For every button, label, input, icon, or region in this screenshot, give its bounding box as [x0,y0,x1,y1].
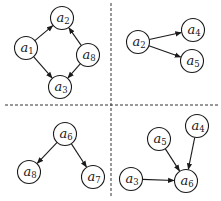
node-label-base: a [188,22,196,37]
edge-a8-to-a3 [68,64,81,78]
node-label-subscript: 8 [90,53,95,63]
edge-a8-to-a2 [69,28,81,46]
node-label-base: a [133,34,141,49]
node-label-subscript: 5 [161,137,166,147]
edge-a6-to-a8 [37,142,57,163]
edge-a5-to-a6 [165,149,179,171]
node-a6: a6 [54,123,77,146]
node-label-subscript: 7 [95,175,100,185]
panel-bottom-left: a6a8a7 [18,123,105,189]
edges [34,26,82,78]
node-label-subscript: 4 [195,28,200,38]
edge-a1-to-a2 [35,26,53,41]
node-a2: a2 [127,31,150,54]
node-a4: a4 [186,115,209,138]
node-a5: a5 [181,50,204,73]
node-label-base: a [57,10,65,25]
panel-top-right: a2a4a5 [127,19,205,73]
edges [149,33,181,57]
edge-a2-to-a5 [149,46,181,57]
node-label-subscript: 3 [133,177,138,187]
node-label-base: a [187,53,195,68]
node-a7: a7 [82,166,105,189]
node-label-subscript: 6 [188,179,193,189]
node-label-base: a [83,47,91,62]
node-a2: a2 [51,7,74,30]
node-label-subscript: 8 [31,170,36,180]
node-label-subscript: 5 [194,59,199,69]
node-label-subscript: 6 [67,132,72,142]
node-label-base: a [60,126,68,141]
node-label-subscript: 3 [62,85,67,95]
edge-a2-to-a4 [149,33,181,40]
node-label-base: a [24,164,32,179]
node-a1: a1 [15,37,38,60]
edge-a1-to-a3 [34,57,53,78]
node-label-subscript: 2 [64,16,69,26]
node-label-base: a [126,171,134,186]
node-label-base: a [154,131,162,146]
node-a8: a8 [77,44,100,67]
node-a3: a3 [49,76,72,99]
edge-a3-to-a6 [142,179,174,180]
node-label-base: a [55,79,63,94]
node-a6: a6 [175,170,198,193]
node-a4: a4 [182,19,205,42]
node-a3: a3 [120,168,143,191]
graph-diagram: a2a1a8a3a2a4a5a6a8a7a4a5a3a6 [0,0,221,201]
node-label-subscript: 2 [140,40,145,50]
panel-bottom-right: a4a5a3a6 [120,115,209,193]
node-label-base: a [192,118,200,133]
node-a8: a8 [18,161,41,184]
node-label-base: a [21,40,29,55]
node-label-base: a [181,173,189,188]
edge-a4-to-a6 [188,137,194,169]
edges [37,142,86,167]
node-label-base: a [88,169,96,184]
node-label-subscript: 4 [199,124,204,134]
node-label-subscript: 1 [28,46,33,56]
node-a5: a5 [148,128,171,151]
edge-a6-to-a7 [71,144,86,167]
panel-top-left: a2a1a8a3 [15,7,100,99]
